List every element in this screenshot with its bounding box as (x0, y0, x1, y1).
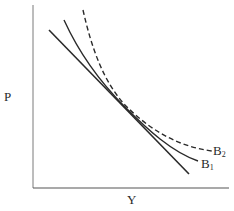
curve-b1-label-sub: 1 (210, 163, 214, 172)
curve-b2-label-sub: 2 (222, 150, 226, 159)
diagram: P Y B2 B1 (0, 0, 234, 211)
curve-b2-label-main: B (213, 143, 222, 158)
curve-b2 (83, 10, 212, 151)
x-axis-label: Y (127, 193, 136, 206)
curve-b1-label: B1 (201, 157, 214, 172)
diagram-canvas (0, 0, 234, 211)
curve-b1 (64, 20, 198, 161)
y-axis-label: P (4, 90, 11, 103)
tangent-line (49, 30, 189, 174)
curve-b2-label: B2 (213, 144, 226, 159)
curve-b1-label-main: B (201, 156, 210, 171)
